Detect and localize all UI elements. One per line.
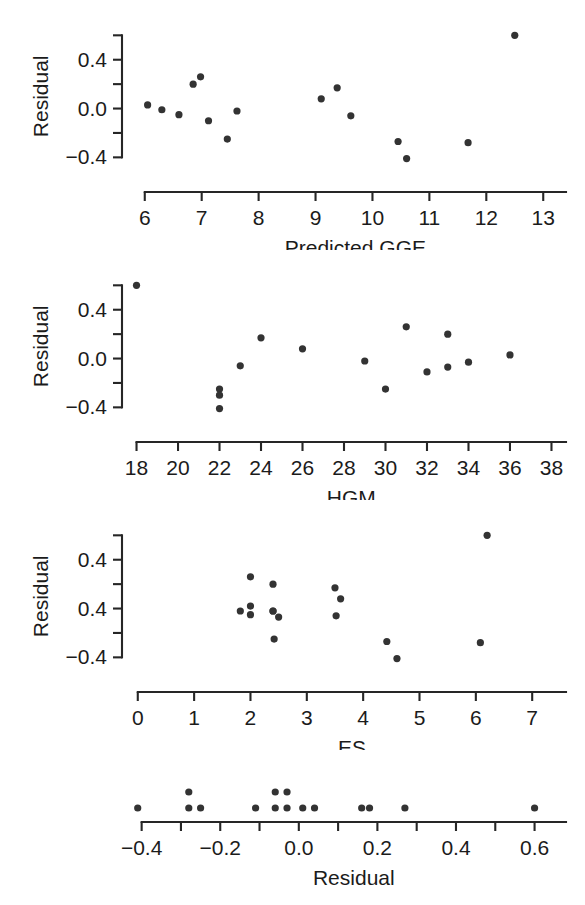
- data-point: [394, 138, 401, 145]
- panel-residual-dotplot: −0.4−0.20.00.20.40.6Residual: [0, 750, 585, 905]
- x-tick-label: 18: [125, 456, 148, 479]
- x-tick-label: 6: [470, 706, 482, 729]
- x-tick-label: 1: [188, 706, 200, 729]
- data-point: [134, 804, 141, 811]
- data-point: [393, 655, 400, 662]
- x-tick-label: 38: [540, 456, 563, 479]
- data-point: [382, 385, 389, 392]
- data-point: [383, 638, 390, 645]
- data-point: [185, 788, 192, 795]
- y-tick-label: 0.4: [78, 298, 108, 321]
- data-point: [401, 804, 408, 811]
- data-point: [233, 107, 240, 114]
- y-axis-title: Residual: [29, 305, 52, 387]
- y-tick-label: 0.0: [78, 97, 107, 120]
- data-point: [272, 788, 279, 795]
- data-point: [133, 282, 140, 289]
- y-tick-label: −0.4: [66, 145, 108, 168]
- data-point: [216, 405, 223, 412]
- x-tick-label: 9: [310, 206, 322, 229]
- data-point: [477, 639, 484, 646]
- y-tick-label: 0.0: [78, 347, 107, 370]
- data-point: [237, 607, 244, 614]
- x-tick-label: 0.0: [284, 836, 313, 859]
- y-tick-label: 0.4: [78, 597, 108, 620]
- panel-hgm-svg: −0.40.00.4Residual1820222426283032343638…: [0, 250, 585, 500]
- panel-predicted-gge: −0.40.00.4Residual678910111213Predicted …: [0, 0, 585, 250]
- data-point: [331, 584, 338, 591]
- y-tick-label: 0.4: [78, 548, 108, 571]
- data-point: [403, 155, 410, 162]
- x-tick-label: 0: [132, 706, 144, 729]
- panel-es-svg: −0.40.40.4Residual01234567ES: [0, 500, 585, 750]
- x-tick-label: 30: [374, 456, 397, 479]
- data-point: [511, 32, 518, 39]
- x-tick-label: 0.6: [520, 836, 549, 859]
- data-point: [247, 611, 254, 618]
- data-point: [444, 331, 451, 338]
- data-point: [257, 334, 264, 341]
- data-point: [197, 804, 204, 811]
- panel-residual-dotplot-svg: −0.4−0.20.00.20.40.6Residual: [0, 750, 585, 905]
- data-point: [318, 95, 325, 102]
- y-axis-title: Residual: [29, 55, 52, 137]
- data-point: [484, 532, 491, 539]
- x-axis-title: ES: [338, 736, 366, 750]
- data-point: [247, 573, 254, 580]
- x-tick-label: 4: [357, 706, 369, 729]
- data-point: [190, 81, 197, 88]
- data-point: [299, 804, 306, 811]
- x-tick-label: 7: [526, 706, 538, 729]
- x-tick-label: 3: [301, 706, 313, 729]
- x-axis-title: Predicted GGE: [285, 236, 426, 250]
- panel-predicted-gge-svg: −0.40.00.4Residual678910111213Predicted …: [0, 0, 585, 250]
- x-tick-label: 26: [291, 456, 314, 479]
- x-axis-title: HGM: [327, 486, 376, 500]
- data-point: [506, 351, 513, 358]
- data-point: [158, 106, 165, 113]
- data-point: [333, 612, 340, 619]
- data-point: [144, 101, 151, 108]
- x-tick-label: 28: [332, 456, 355, 479]
- data-point: [272, 804, 279, 811]
- data-point: [423, 368, 430, 375]
- data-point: [205, 117, 212, 124]
- data-point: [347, 112, 354, 119]
- data-point: [197, 73, 204, 80]
- data-point: [283, 804, 290, 811]
- data-point: [269, 581, 276, 588]
- y-tick-label: −0.4: [66, 645, 108, 668]
- data-point: [464, 139, 471, 146]
- y-tick-label: −0.4: [66, 395, 108, 418]
- x-tick-label: 20: [166, 456, 189, 479]
- data-point: [311, 804, 318, 811]
- data-point: [358, 804, 365, 811]
- data-point: [444, 363, 451, 370]
- x-tick-label: 10: [361, 206, 384, 229]
- data-point: [283, 788, 290, 795]
- x-tick-label: 32: [415, 456, 438, 479]
- data-point: [403, 323, 410, 330]
- data-point: [224, 135, 231, 142]
- residual-diagnostic-figure: −0.40.00.4Residual678910111213Predicted …: [0, 0, 585, 905]
- x-tick-label: 36: [498, 456, 521, 479]
- x-tick-label: 13: [532, 206, 555, 229]
- data-point: [237, 362, 244, 369]
- x-tick-label: −0.4: [121, 836, 163, 859]
- y-axis-title: Residual: [29, 555, 52, 637]
- x-tick-label: 24: [249, 456, 273, 479]
- panel-hgm: −0.40.00.4Residual1820222426283032343638…: [0, 250, 585, 500]
- x-tick-label: 7: [196, 206, 208, 229]
- x-tick-label: 12: [475, 206, 498, 229]
- x-tick-label: 6: [139, 206, 151, 229]
- x-tick-label: 5: [414, 706, 426, 729]
- data-point: [531, 804, 538, 811]
- data-point: [216, 392, 223, 399]
- data-point: [275, 613, 282, 620]
- data-point: [361, 357, 368, 364]
- x-tick-label: 0.2: [363, 836, 392, 859]
- x-tick-label: 11: [418, 206, 440, 229]
- data-point: [465, 359, 472, 366]
- x-tick-label: 0.4: [441, 836, 471, 859]
- data-point: [185, 804, 192, 811]
